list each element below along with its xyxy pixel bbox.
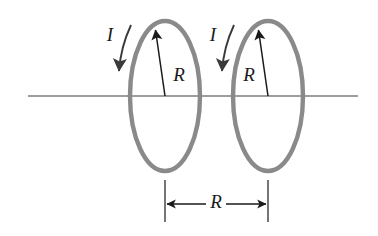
right-current-label: I — [209, 24, 218, 45]
separation-dimension-group: R — [165, 180, 268, 222]
left-current-direction-arrow — [119, 25, 131, 71]
left-current-label: I — [106, 24, 115, 45]
left-radius-label: R — [172, 64, 185, 85]
separation-dimension-label: R — [209, 191, 222, 212]
left-radius-arrow — [156, 30, 166, 96]
figure-canvas: I R I R R — [0, 0, 378, 236]
right-current-direction-arrow — [222, 25, 234, 71]
right-radius-arrow — [259, 30, 269, 96]
right-radius-label: R — [242, 64, 255, 85]
physics-figure: I R I R R — [0, 0, 378, 236]
